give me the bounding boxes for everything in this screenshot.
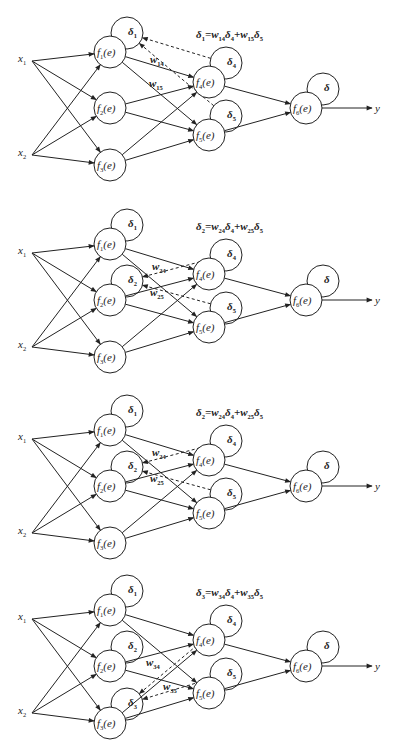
neuron-label-f2: f2(e) [97, 102, 116, 116]
input-label-x2: x2 [17, 146, 26, 160]
edge-x1-f2 [32, 619, 96, 658]
delta-label-f6: δ [324, 639, 330, 651]
delta-formula: δ2=w24δ4+w25δ5 [196, 220, 264, 234]
input-label-x1: x1 [17, 244, 26, 258]
edge-x1-f1 [32, 246, 94, 253]
backprop-diagram: δ1δ4δ5δf1(e)f2(e)f3(e)f4(e)f5(e)f6(e)x1x… [0, 0, 393, 740]
edge-f3-f5 [125, 332, 193, 353]
neuron-label-f1: f1(e) [97, 604, 116, 618]
output-label-y: y [374, 660, 380, 672]
edge-f4-f6 [224, 278, 290, 296]
neuron-label-f3: f3(e) [97, 351, 116, 365]
input-label-x1: x1 [17, 52, 26, 66]
neuron-label-f6: f6(e) [293, 294, 312, 308]
edge-f4-f6 [224, 644, 290, 662]
edge-f3-f5 [125, 140, 193, 161]
input-label-x1: x1 [17, 430, 26, 444]
edge-x2-f2 [32, 674, 96, 713]
edge-x2-f3 [32, 713, 94, 721]
edge-x2-f2 [32, 494, 96, 533]
neuron-label-f2: f2(e) [97, 294, 116, 308]
edge-f4-f6 [224, 464, 290, 482]
neuron-label-f6: f6(e) [293, 660, 312, 674]
edge-f2-f5 [125, 490, 193, 509]
panel-4: δ1δ2δ3δ4δ5δf1(e)f2(e)f3(e)f4(e)f5(e)f6(e… [17, 575, 380, 739]
neuron-label-f1: f1(e) [97, 238, 116, 252]
edge-f2-f5 [125, 112, 193, 131]
edge-x2-f1 [32, 257, 100, 347]
edge-x2-f2 [32, 308, 96, 347]
weight-label-w35: w35 [163, 680, 178, 694]
input-label-x2: x2 [17, 704, 26, 718]
neuron-label-f4: f4(e) [196, 454, 215, 468]
edge-x2-f3 [32, 347, 94, 355]
edge-x1-f3 [32, 61, 100, 152]
neuron-label-f2: f2(e) [97, 660, 116, 674]
delta-formula: δ2=w24δ4+w25δ5 [196, 406, 264, 420]
edge-x1-f2 [32, 61, 96, 100]
edge-x1-f3 [32, 253, 100, 344]
output-label-y: y [374, 102, 380, 114]
edge-f2-f5 [125, 670, 193, 689]
neuron-label-f3: f3(e) [97, 159, 116, 173]
edge-x1-f3 [32, 619, 100, 710]
neuron-label-f1: f1(e) [97, 424, 116, 438]
edge-f1-f5 [122, 62, 196, 124]
edge-f4-f6 [224, 86, 290, 104]
neuron-label-f5: f5(e) [196, 321, 215, 335]
neuron-label-f5: f5(e) [196, 687, 215, 701]
neuron-label-f5: f5(e) [196, 507, 215, 521]
delta-formula: δ3=w34δ4+w35δ5 [196, 586, 264, 600]
edge-x2-f1 [32, 443, 100, 533]
output-label-y: y [374, 294, 380, 306]
edge-x2-f1 [32, 65, 100, 155]
edge-x1-f1 [32, 612, 94, 619]
diagram-canvas: δ1δ4δ5δf1(e)f2(e)f3(e)f4(e)f5(e)f6(e)x1x… [0, 0, 393, 740]
delta-label-f6: δ [324, 81, 330, 93]
edge-f3-f5 [125, 518, 193, 539]
edge-x2-f3 [32, 155, 94, 163]
panel-2: δ1δ2δ4δ5δf1(e)f2(e)f3(e)f4(e)f5(e)f6(e)x… [17, 209, 380, 373]
weight-label-w24: w24 [152, 260, 167, 274]
panel-3: δ1δ2δ4δ5δf1(e)f2(e)f3(e)f4(e)f5(e)f6(e)x… [17, 395, 380, 559]
neuron-label-f3: f3(e) [97, 537, 116, 551]
weight-label-w14: w14 [150, 53, 165, 67]
edge-x1-f1 [32, 54, 94, 61]
neuron-label-f1: f1(e) [97, 46, 116, 60]
weight-label-w15: w15 [149, 77, 164, 91]
neuron-label-f4: f4(e) [196, 76, 215, 90]
neuron-label-f6: f6(e) [293, 102, 312, 116]
edge-x1-f1 [32, 432, 94, 439]
edge-x2-f1 [32, 623, 100, 713]
neuron-label-f4: f4(e) [196, 634, 215, 648]
input-label-x2: x2 [17, 524, 26, 538]
neuron-label-f5: f5(e) [196, 129, 215, 143]
edge-x2-f3 [32, 533, 94, 541]
delta-label-f6: δ [324, 273, 330, 285]
neuron-label-f4: f4(e) [196, 268, 215, 282]
edge-f1-f4 [125, 615, 193, 636]
weight-label-w34: w34 [146, 656, 161, 670]
delta-label-f6: δ [324, 459, 330, 471]
delta-formula: δ1=w14δ4+w15δ5 [196, 28, 264, 42]
input-label-x1: x1 [17, 610, 26, 624]
edge-x1-f3 [32, 439, 100, 530]
edge-x1-f2 [32, 439, 96, 478]
neuron-label-f3: f3(e) [97, 717, 116, 731]
input-label-x2: x2 [17, 338, 26, 352]
neuron-label-f6: f6(e) [293, 480, 312, 494]
weight-label-w24: w24 [152, 446, 167, 460]
output-label-y: y [374, 480, 380, 492]
edge-x2-f2 [32, 116, 96, 155]
edge-x1-f2 [32, 253, 96, 292]
panel-1: δ1δ4δ5δf1(e)f2(e)f3(e)f4(e)f5(e)f6(e)x1x… [17, 17, 380, 181]
edge-f2-f5 [125, 304, 193, 323]
neuron-label-f2: f2(e) [97, 480, 116, 494]
